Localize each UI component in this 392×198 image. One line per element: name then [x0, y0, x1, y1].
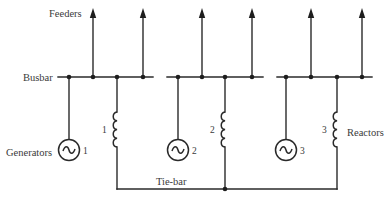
feeder-arrow-icon [308, 8, 314, 18]
tie-bar-junction-dot [223, 187, 228, 192]
reactor-junction-dot [223, 75, 228, 80]
reactors-label: Reactors [347, 127, 384, 138]
section-2: 22 [167, 8, 263, 189]
feeder-arrow-icon [359, 8, 365, 18]
reactor-coil-icon [221, 112, 225, 147]
tie-bar-label: Tie-bar [156, 176, 187, 187]
reactor-junction-dot [335, 75, 340, 80]
feeder-junction-dot [141, 75, 146, 80]
section-3: 33 [276, 8, 373, 189]
busbar-label: Busbar [23, 72, 53, 83]
generator-number: 3 [300, 146, 305, 156]
feeder-junction-dot [250, 75, 255, 80]
generator-junction-dot [176, 75, 181, 80]
reactor-coil-icon [113, 112, 117, 147]
generator-junction-dot [284, 75, 289, 80]
feeders-label: Feeders [49, 8, 82, 19]
generator-number: 2 [192, 146, 197, 156]
reactor-number: 2 [210, 125, 215, 135]
tie-bar [117, 187, 337, 192]
feeder-arrow-icon [199, 8, 205, 18]
feeder-arrow-icon [140, 8, 146, 18]
section-1: 11 [58, 8, 153, 189]
feeder-arrow-icon [249, 8, 255, 18]
generator-number: 1 [83, 146, 88, 156]
generators-label: Generators [6, 147, 52, 158]
feeder-junction-dot [309, 75, 314, 80]
feeder-junction-dot [360, 75, 365, 80]
sections: 112233 [58, 8, 372, 189]
reactor-coil-icon [333, 112, 337, 147]
reactor-number: 1 [102, 125, 107, 135]
reactor-number: 3 [322, 125, 327, 135]
feeder-arrow-icon [90, 8, 96, 18]
feeder-junction-dot [200, 75, 205, 80]
reactor-junction-dot [115, 75, 120, 80]
feeder-junction-dot [91, 75, 96, 80]
generator-junction-dot [67, 75, 72, 80]
tie-bar-diagram: Feeders Busbar Generators Reactors Tie-b… [0, 0, 392, 198]
